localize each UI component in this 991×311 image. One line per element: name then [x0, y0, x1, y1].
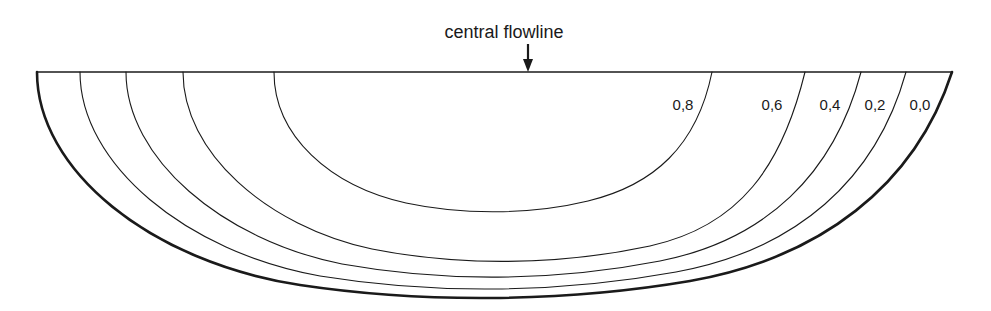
page-title: central flowline	[444, 22, 563, 42]
contour-label: 0,8	[673, 96, 694, 113]
flowline-label-group: 0,00,20,40,60,8	[673, 96, 931, 113]
contour-label: 0,6	[762, 96, 783, 113]
central-flowline-diagram: central flowline 0,00,20,40,60,8	[0, 0, 991, 311]
contour-label: 0,4	[820, 96, 841, 113]
contour-label: 0,2	[865, 96, 886, 113]
contour-label: 0,0	[910, 96, 931, 113]
down-arrow-icon	[523, 44, 533, 72]
flowline-contour	[274, 72, 712, 212]
ice-margin-boundary	[37, 72, 952, 298]
flowline-contour	[183, 72, 805, 261]
flowline-contour	[126, 72, 861, 277]
flowline-contour-group	[37, 72, 952, 298]
arrow-head	[523, 59, 533, 72]
